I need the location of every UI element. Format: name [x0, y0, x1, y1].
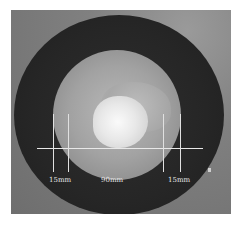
- dimension-line-inner-right: [163, 114, 164, 172]
- label-right-margin: 15mm: [168, 176, 190, 184]
- dimension-line-inner-left: [68, 114, 69, 172]
- marker-dot: [208, 168, 211, 172]
- label-center-diameter: 90mm: [101, 176, 123, 184]
- horizontal-dimension-line: [37, 148, 203, 149]
- dimension-line-outer-left: [53, 114, 54, 172]
- specimen-photo: 15mm 90mm 15mm: [11, 10, 231, 214]
- label-left-margin: 15mm: [49, 176, 71, 184]
- dimension-line-outer-right: [180, 114, 181, 172]
